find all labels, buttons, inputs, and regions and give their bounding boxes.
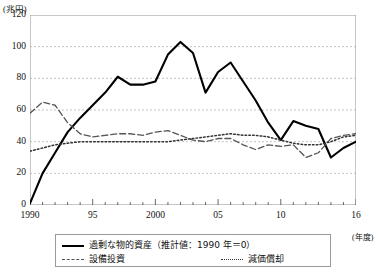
legend-label-capital-investment: 設備投資 (89, 255, 125, 264)
legend-row-1: 過剰な物的資産（推計値：1990 年＝0） (62, 238, 324, 252)
figure-chart: (兆円) (年度) 020406080100120199095200005101… (0, 0, 386, 276)
y-axis-tick-label: 80 (17, 74, 27, 84)
y-axis-tick-label: 120 (12, 10, 26, 20)
legend-item-capital-investment: 設備投資 (62, 255, 125, 264)
legend-item-depreciation: 減価償却 (221, 255, 284, 264)
y-axis-tick-label: 0 (21, 200, 26, 210)
x-axis-tick-label: 1990 (21, 211, 40, 221)
x-axis-tick-label: 16 (351, 211, 361, 221)
line-chart-svg (30, 15, 356, 205)
legend-item-excess-assets: 過剰な物的資産（推計値：1990 年＝0） (62, 241, 256, 250)
legend-row-2: 設備投資 減価償却 (62, 252, 324, 266)
legend-label-depreciation: 減価償却 (248, 255, 284, 264)
x-axis-tick-label: 05 (213, 211, 223, 221)
x-axis-tick-label: 95 (88, 211, 98, 221)
y-axis-tick-label: 40 (17, 137, 27, 147)
y-axis-tick-label: 20 (17, 169, 27, 179)
x-axis-unit-label: (年度) (352, 231, 373, 242)
chart-legend: 過剰な物的資産（推計値：1990 年＝0） 設備投資 減価償却 (55, 234, 331, 267)
line-solid-icon (62, 241, 84, 249)
plot-area: 0204060801001201990952000051016 (30, 15, 356, 205)
line-dashed-icon (62, 255, 84, 263)
legend-label-excess-assets: 過剰な物的資産（推計値：1990 年＝0） (89, 241, 256, 250)
line-dotted-icon (221, 255, 243, 263)
x-axis-tick-label: 10 (276, 211, 286, 221)
x-axis-tick-label: 2000 (146, 211, 165, 221)
y-axis-tick-label: 60 (17, 105, 27, 115)
y-axis-tick-label: 100 (12, 42, 26, 52)
